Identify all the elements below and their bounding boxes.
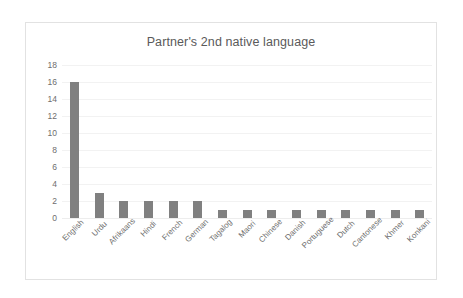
y-axis-tick-label: 6 <box>52 162 57 172</box>
y-axis-tick-label: 10 <box>48 128 57 138</box>
bar[interactable] <box>95 193 104 219</box>
x-axis-tick-label: Urdu <box>90 220 109 239</box>
x-label-slot: French <box>161 221 186 279</box>
bar[interactable] <box>218 210 227 219</box>
x-axis-tick-label: Khmer <box>383 218 406 241</box>
bar[interactable] <box>119 201 128 218</box>
bar[interactable] <box>391 210 400 219</box>
bar-slot <box>259 65 284 218</box>
x-label-slot: Afrikaans <box>111 221 136 279</box>
x-label-slot: Konkani <box>407 221 432 279</box>
bar-slot <box>407 65 432 218</box>
x-label-slot: German <box>185 221 210 279</box>
x-axis-tick-label: Hindi <box>139 219 158 238</box>
y-axis-tick-label: 2 <box>52 196 57 206</box>
x-label-slot: English <box>62 221 87 279</box>
bar-slot <box>235 65 260 218</box>
y-axis-tick-label: 0 <box>52 213 57 223</box>
bar-slot <box>210 65 235 218</box>
x-label-slot: Urdu <box>87 221 112 279</box>
bar-slot <box>284 65 309 218</box>
x-axis-labels: EnglishUrduAfrikaansHindiFrenchGermanTag… <box>62 221 432 279</box>
bar[interactable] <box>169 201 178 218</box>
y-axis-tick-label: 4 <box>52 179 57 189</box>
x-label-slot: Danish <box>284 221 309 279</box>
x-axis-tick-label: Tagalog <box>208 217 234 243</box>
y-axis-tick-label: 12 <box>48 111 57 121</box>
bar[interactable] <box>70 82 79 218</box>
x-axis-tick-label: Afrikaans <box>107 216 137 246</box>
x-axis-tick-label: Maori <box>237 219 258 240</box>
x-label-slot: Hindi <box>136 221 161 279</box>
chart-container: Partner's 2nd native language 1816141210… <box>25 22 437 280</box>
bar-slot <box>111 65 136 218</box>
bar-slot <box>358 65 383 218</box>
bar-slot <box>333 65 358 218</box>
plot-area <box>62 65 432 218</box>
bar-slot <box>185 65 210 218</box>
y-axis-tick-label: 18 <box>48 60 57 70</box>
bar[interactable] <box>366 210 375 219</box>
x-axis-tick-label: French <box>160 218 184 242</box>
bar-slot <box>87 65 112 218</box>
x-label-slot: Portuguese <box>309 221 334 279</box>
bar[interactable] <box>292 210 301 219</box>
y-axis: 181614121086420 <box>26 65 60 218</box>
x-label-slot: Khmer <box>383 221 408 279</box>
bar[interactable] <box>415 210 424 219</box>
x-label-slot: Tagalog <box>210 221 235 279</box>
plot-wrapper: 181614121086420 EnglishUrduAfrikaansHind… <box>26 65 438 281</box>
x-label-slot: Dutch <box>333 221 358 279</box>
x-label-slot: Cantonese <box>358 221 383 279</box>
bar-slot <box>161 65 186 218</box>
x-axis-tick-label: Chinese <box>257 217 284 244</box>
bar[interactable] <box>243 210 252 219</box>
y-axis-tick-label: 8 <box>52 145 57 155</box>
x-axis-tick-label: Dutch <box>335 219 356 240</box>
x-axis-tick-label: Konkani <box>405 217 432 244</box>
bar[interactable] <box>341 210 350 219</box>
bar-slot <box>309 65 334 218</box>
x-axis-tick-label: English <box>61 218 86 243</box>
bar-slot <box>136 65 161 218</box>
x-label-slot: Maori <box>235 221 260 279</box>
x-axis-tick-label: German <box>183 217 210 244</box>
bar[interactable] <box>193 201 202 218</box>
y-axis-tick-label: 16 <box>48 77 57 87</box>
bar-series <box>62 65 432 218</box>
bar[interactable] <box>317 210 326 219</box>
x-label-slot: Chinese <box>259 221 284 279</box>
bar-slot <box>62 65 87 218</box>
bar[interactable] <box>144 201 153 218</box>
bar[interactable] <box>267 210 276 219</box>
chart-title: Partner's 2nd native language <box>26 35 436 49</box>
bar-slot <box>383 65 408 218</box>
y-axis-tick-label: 14 <box>48 94 57 104</box>
